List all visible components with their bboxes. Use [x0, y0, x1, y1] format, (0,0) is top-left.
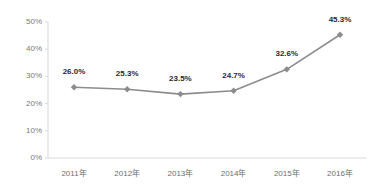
y-axis-tick-label: 40% [8, 44, 42, 53]
axis-lines [48, 22, 366, 158]
data-point-marker[interactable] [71, 84, 77, 90]
line-chart: 0%10%20%30%40%50% 2011年2012年2013年2014年20… [0, 0, 381, 195]
data-point-label: 26.0% [53, 67, 95, 76]
x-axis-tick-label: 2013年 [155, 167, 205, 178]
series-line [74, 35, 340, 94]
data-point-label: 25.3% [106, 69, 148, 78]
data-point-marker[interactable] [177, 91, 183, 97]
x-axis-tick-label: 2014年 [209, 167, 259, 178]
series-markers [71, 32, 343, 98]
y-axis-tick-label: 20% [8, 99, 42, 108]
data-point-label: 23.5% [159, 74, 201, 83]
data-point-marker[interactable] [124, 86, 130, 92]
y-axis-tick-label: 10% [8, 126, 42, 135]
y-axis-tick-label: 30% [8, 71, 42, 80]
x-axis-tick-label: 2011年 [49, 167, 99, 178]
data-point-marker[interactable] [230, 88, 236, 94]
chart-plot-area [0, 0, 381, 195]
y-axis-tick-label: 0% [8, 153, 42, 162]
y-axis-tick-label: 50% [8, 17, 42, 26]
data-point-label: 32.6% [266, 49, 308, 58]
data-point-label: 45.3% [319, 15, 361, 24]
x-axis-tick-label: 2012年 [102, 167, 152, 178]
data-point-label: 24.7% [213, 71, 255, 80]
x-axis-tick-label: 2015年 [262, 167, 312, 178]
x-axis-tick-label: 2016年 [315, 167, 365, 178]
